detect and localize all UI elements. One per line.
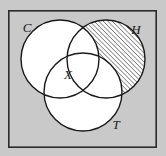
venn-diagram-canvas: C H T X [0, 0, 166, 156]
set-label-C: C [23, 20, 32, 35]
venn-diagram-figure: C H T X [0, 0, 166, 156]
set-label-T: T [112, 117, 120, 132]
set-label-H: H [130, 22, 141, 37]
point-label-X: X [63, 67, 73, 82]
